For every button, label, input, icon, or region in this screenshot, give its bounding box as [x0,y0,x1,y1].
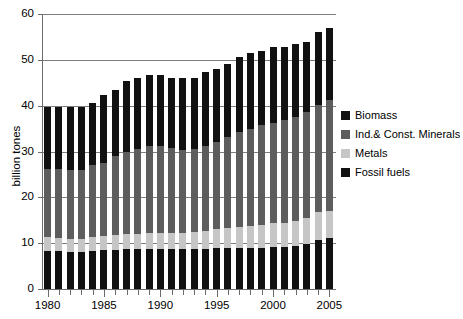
bar-2000 [270,47,277,289]
bar-1992 [179,78,186,289]
bar-segment-minerals-1997 [236,132,243,226]
y-tick-label-60: 60 [0,8,34,20]
bar-segment-minerals-2002 [292,117,299,221]
bar-segment-minerals-1988 [134,149,141,233]
bar-1980 [44,107,51,289]
bar-segment-biomass-1980 [44,107,51,169]
x-axis-line [42,289,336,290]
bar-segment-fossil-1980 [44,251,51,289]
bar-2003 [303,42,310,290]
bar-1984 [89,103,96,289]
bar-segment-minerals-1985 [100,163,107,236]
bar-segment-metals-1991 [168,233,175,249]
bar-1997 [236,57,243,289]
x-tick-1998 [250,290,251,295]
bar-segment-metals-1980 [44,237,51,251]
legend-item-minerals[interactable]: Ind.& Const. Minerals [341,126,463,143]
bar-segment-biomass-1997 [236,57,243,133]
bar-segment-fossil-1999 [258,248,265,289]
bar-segment-biomass-1987 [123,81,130,152]
bar-segment-minerals-1991 [168,148,175,233]
y-tick-label-20: 20 [0,191,34,203]
bar-segment-metals-1987 [123,234,130,249]
legend-label-fossil: Fossil fuels [355,167,410,178]
legend-swatch-fossil-icon [341,168,350,177]
bar-segment-biomass-1996 [224,64,231,136]
bar-segment-fossil-1995 [213,248,220,289]
x-tick-1988 [138,290,139,295]
bar-segment-biomass-2001 [281,47,288,121]
bar-segment-metals-1985 [100,236,107,250]
x-tick-1992 [183,290,184,295]
bar-segment-metals-2004 [315,212,322,240]
bar-segment-fossil-2001 [281,247,288,289]
legend-swatch-metals-icon [341,149,350,158]
bar-segment-minerals-2005 [326,100,333,211]
bar-segment-minerals-2004 [315,105,322,213]
bar-2001 [281,47,288,289]
bar-segment-minerals-1986 [112,156,119,235]
bar-segment-fossil-2005 [326,238,333,289]
bar-segment-metals-1996 [224,228,231,248]
x-tick-1981 [59,290,60,295]
bar-1988 [134,78,141,289]
bar-segment-metals-1997 [236,227,243,248]
bar-1998 [247,53,254,289]
bar-segment-fossil-1992 [179,249,186,289]
bar-segment-biomass-1985 [100,95,107,163]
x-tick-2005 [329,290,330,297]
x-tick-2003 [307,290,308,295]
bar-segment-minerals-2001 [281,120,288,222]
bar-segment-minerals-1982 [67,170,74,238]
x-tick-label-1985: 1985 [84,299,124,311]
x-tick-1986 [115,290,116,295]
bar-segment-metals-1983 [78,239,85,252]
bar-segment-minerals-1992 [179,150,186,233]
x-tick-label-1990: 1990 [140,299,180,311]
bar-1987 [123,81,130,289]
bar-segment-metals-1984 [89,237,96,251]
bar-segment-minerals-1984 [89,165,96,237]
bar-2005 [326,28,333,289]
bar-1983 [78,107,85,289]
y-tick-label-10: 10 [0,237,34,249]
bar-segment-fossil-1982 [67,252,74,289]
legend-item-metals[interactable]: Metals [341,145,463,162]
bar-segment-biomass-2000 [270,47,277,122]
bar-segment-fossil-1994 [202,249,209,289]
bar-segment-fossil-1987 [123,249,130,289]
x-tick-2002 [296,290,297,295]
bar-segment-metals-1994 [202,231,209,249]
bar-segment-metals-2003 [303,218,310,245]
x-tick-1985 [104,290,105,297]
bar-segment-minerals-1983 [78,170,85,238]
bar-segment-biomass-1986 [112,90,119,156]
bar-segment-fossil-1996 [224,248,231,289]
bar-segment-metals-1992 [179,233,186,250]
bar-segment-biomass-1988 [134,78,141,149]
bar-1990 [157,75,164,290]
bar-segment-minerals-1987 [123,152,130,235]
bar-1996 [224,64,231,289]
bar-segment-fossil-1985 [100,250,107,289]
bar-segment-biomass-1983 [78,107,85,171]
x-tick-label-2005: 2005 [309,299,349,311]
y-tick-label-30: 30 [0,146,34,158]
bar-segment-biomass-1982 [67,107,74,171]
x-tick-label-1995: 1995 [197,299,237,311]
bar-segment-biomass-2002 [292,44,299,116]
legend-item-fossil[interactable]: Fossil fuels [341,164,463,181]
bar-segment-biomass-1999 [258,51,265,126]
bar-segment-fossil-1986 [112,250,119,289]
legend-label-biomass: Biomass [355,110,397,121]
bar-segment-biomass-1989 [146,75,153,147]
bar-segment-biomass-1990 [157,75,164,147]
bar-segment-metals-2005 [326,211,333,239]
x-tick-1980 [48,290,49,297]
bar-1995 [213,69,220,289]
bar-segment-metals-1981 [55,238,62,252]
legend-item-biomass[interactable]: Biomass [341,107,463,124]
bar-segment-fossil-1997 [236,248,243,289]
legend-swatch-biomass-icon [341,111,350,120]
legend-label-minerals: Ind.& Const. Minerals [355,129,460,140]
